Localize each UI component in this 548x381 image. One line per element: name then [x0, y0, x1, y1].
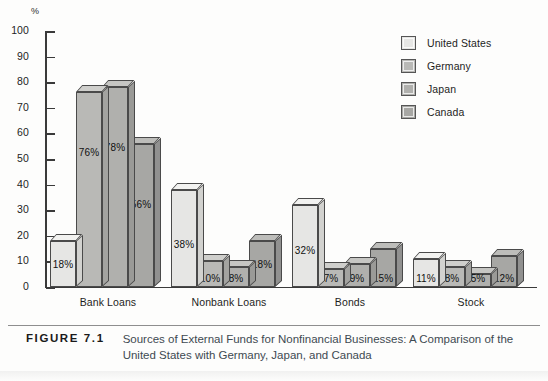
legend-color-swatch [401, 36, 416, 50]
legend-item-label: United States [427, 37, 491, 49]
legend-item-label: Canada [427, 106, 464, 118]
legend-color-swatch [401, 59, 416, 73]
bar-side-face [128, 81, 135, 287]
chart-legend: United StatesGermanyJapanCanada [401, 33, 491, 125]
legend-item: Germany [401, 56, 491, 75]
figure-container: % 1009080706050403020100 18%76%78%56%38%… [0, 0, 548, 381]
bar-value-label: 38% [171, 239, 197, 250]
legend-color-swatch [401, 105, 416, 119]
bar: 11% [413, 259, 439, 287]
page-edge-artifact [0, 371, 548, 381]
bar-value-label: 11% [413, 273, 439, 284]
figure-caption: FIGURE 7.1 Sources of External Funds for… [26, 331, 531, 364]
legend-color-swatch [401, 82, 416, 96]
legend-item: United States [401, 33, 491, 52]
caption-divider [8, 325, 540, 326]
bar: 32% [292, 205, 318, 287]
legend-item: Japan [401, 79, 491, 98]
chart-plot-area: % 1009080706050403020100 18%76%78%56%38%… [0, 0, 548, 300]
legend-item-label: Germany [427, 60, 471, 72]
bar-side-face [76, 235, 83, 287]
bar-value-label: 76% [76, 147, 102, 158]
bar: 38% [171, 190, 197, 287]
bar-side-face [154, 137, 161, 287]
figure-number: FIGURE 7.1 [26, 331, 105, 344]
bar-side-face [102, 86, 109, 287]
legend-item-label: Japan [427, 83, 456, 95]
bar-value-label: 32% [292, 245, 318, 256]
x-axis-label: Stock [391, 296, 548, 308]
bar-side-face [318, 199, 325, 287]
bar-value-label: 18% [50, 259, 76, 270]
figure-caption-text: Sources of External Funds for Nonfinanci… [123, 331, 531, 364]
bar-side-face [197, 183, 204, 287]
bar: 18% [50, 241, 76, 287]
bar-side-face [396, 242, 403, 287]
legend-item: Canada [401, 102, 491, 121]
bar-side-face [517, 250, 524, 287]
bar-side-face [275, 235, 282, 287]
